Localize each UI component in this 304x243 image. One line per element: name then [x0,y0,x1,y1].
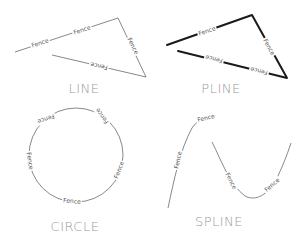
circle-title: CIRCLE [51,219,100,234]
spline-panel: Fence Fence Fence Fence SPLINE [168,112,291,229]
fence-label: Fence [93,107,109,126]
fence-label: Fence [224,171,238,190]
circle-panel: Fence Fence Fence Fence Fence CIRCLE [26,106,126,234]
fence-label: Fence [262,37,277,56]
fence-label: Fence [172,150,183,169]
spline-title: SPLINE [195,214,243,229]
line-panel: Fence Fence Fence Fence LINE [15,18,146,96]
line-title: LINE [68,81,99,96]
fence-label: Fence [36,113,55,126]
fence-label: Fence [72,23,91,35]
fence-label: Fence [197,24,216,36]
pline-title: PLINE [201,81,240,96]
spline-shape-2 [212,142,291,198]
fence-label: Fence [204,54,223,65]
fence-label: Fence [30,36,49,48]
fence-label: Fence [249,66,268,77]
fence-label: Fence [63,196,81,205]
fence-label: Fence [126,36,140,55]
fence-label: Fence [89,61,108,72]
linetype-diagram: Fence Fence Fence Fence LINE Fence Fence… [0,0,304,243]
fence-label: Fence [196,112,215,123]
fence-label: Fence [112,160,125,179]
fence-label: Fence [26,152,35,171]
pline-panel: Fence Fence Fence Fence PLINE [167,15,287,96]
